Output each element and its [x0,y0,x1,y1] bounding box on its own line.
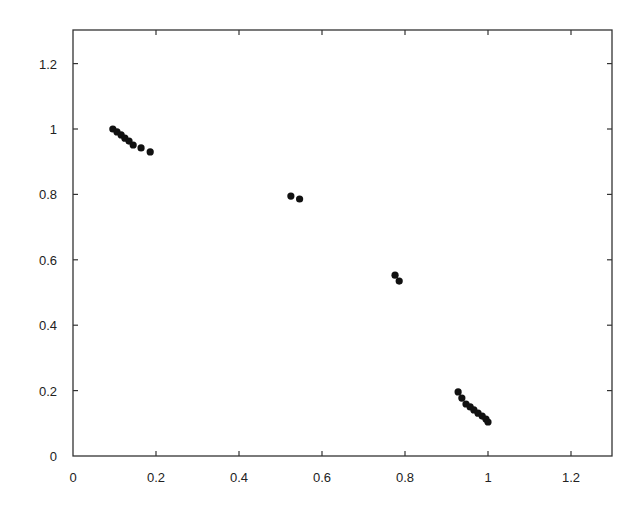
data-point [296,195,303,202]
data-point [455,388,462,395]
x-tick-label: 1 [484,470,491,485]
data-point [396,277,403,284]
y-tick-label: 0.2 [39,384,57,399]
x-tick-label: 1.2 [562,470,580,485]
x-tick-label: 0.2 [147,470,165,485]
x-tick-label: 0.6 [313,470,331,485]
data-point [130,141,137,148]
data-point [458,395,465,402]
x-tick-label: 0.4 [230,470,248,485]
y-tick-label: 0 [50,449,57,464]
y-tick-label: 0.4 [39,318,57,333]
data-point [391,272,398,279]
y-axis-labels: 00.20.40.60.811.2 [39,57,57,464]
data-point [147,148,154,155]
plot-frame [73,30,612,456]
data-point [137,144,144,151]
y-tick-label: 0.8 [39,187,57,202]
y-tick-label: 0.6 [39,253,57,268]
scatter-chart: 00.20.40.60.811.2 00.20.40.60.811.2 [0,0,644,510]
data-point [484,418,491,425]
x-axis-labels: 00.20.40.60.811.2 [69,470,580,485]
data-point [287,192,294,199]
x-tick-label: 0 [69,470,76,485]
x-tick-label: 0.8 [396,470,414,485]
data-points [109,125,491,425]
x-axis-ticks [156,30,571,456]
y-tick-label: 1.2 [39,57,57,72]
y-tick-label: 1 [50,122,57,137]
y-axis-ticks [73,64,612,391]
